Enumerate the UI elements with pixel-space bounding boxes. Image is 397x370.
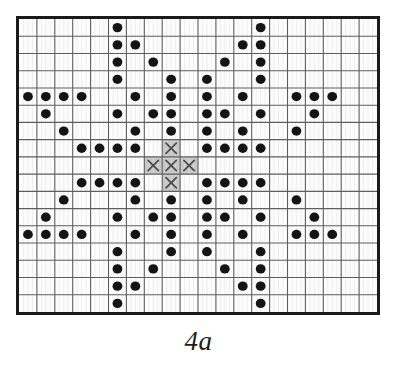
lattice-dot	[166, 92, 176, 101]
lattice-dot	[113, 178, 123, 187]
lattice-dot	[113, 23, 123, 32]
lattice-dot	[77, 92, 87, 101]
lattice-dot	[238, 282, 248, 291]
lattice-dot	[130, 178, 140, 187]
lattice-dot	[256, 23, 266, 32]
lattice-dot	[327, 230, 337, 239]
lattice-dot	[202, 126, 212, 135]
lattice-dot	[220, 213, 230, 222]
lattice-dot	[130, 126, 140, 135]
lattice-dot	[309, 230, 319, 239]
lattice-dot	[113, 264, 123, 273]
lattice-dot	[41, 109, 51, 118]
lattice-dot	[256, 144, 266, 153]
lattice-dot	[59, 126, 69, 135]
lattice-dot	[292, 126, 302, 135]
lattice-dot	[309, 92, 319, 101]
lattice-dot	[202, 144, 212, 153]
lattice-dot	[309, 213, 319, 222]
lattice-dot	[130, 195, 140, 204]
lattice-dot	[166, 230, 176, 239]
lattice-dot	[166, 195, 176, 204]
lattice-dot	[256, 75, 266, 84]
lattice-dot	[238, 126, 248, 135]
lattice-dot	[23, 92, 33, 101]
lattice-dot	[77, 230, 87, 239]
lattice-dot	[202, 109, 212, 118]
lattice-dot	[327, 92, 337, 101]
lattice-dot	[130, 144, 140, 153]
lattice-dot	[202, 195, 212, 204]
lattice-dot	[113, 282, 123, 291]
lattice-dot	[220, 144, 230, 153]
lattice-dot	[59, 195, 69, 204]
lattice-dot	[130, 230, 140, 239]
lattice-dot	[202, 75, 212, 84]
lattice-dot	[113, 57, 123, 66]
lattice-dot	[220, 264, 230, 273]
lattice-dot	[113, 40, 123, 49]
lattice-dot	[41, 230, 51, 239]
lattice-dot	[256, 213, 266, 222]
lattice-dot	[238, 230, 248, 239]
lattice-dot	[130, 92, 140, 101]
lattice-dot	[256, 178, 266, 187]
lattice-dot	[256, 264, 266, 273]
lattice-dot	[292, 92, 302, 101]
lattice-dot	[256, 57, 266, 66]
lattice-dot	[238, 195, 248, 204]
lattice-dot	[113, 299, 123, 308]
lattice-dot	[256, 40, 266, 49]
lattice-dot	[95, 178, 105, 187]
lattice-dot	[77, 178, 87, 187]
lattice-dot	[166, 213, 176, 222]
lattice-dot	[256, 299, 266, 308]
lattice-dot	[238, 178, 248, 187]
lattice-dot	[238, 92, 248, 101]
lattice-dot	[220, 109, 230, 118]
figure-container: 4a	[0, 0, 397, 370]
lattice-dot	[256, 109, 266, 118]
lattice-dot	[202, 247, 212, 256]
lattice-dot	[130, 40, 140, 49]
lattice-dot	[41, 92, 51, 101]
lattice-dot	[238, 40, 248, 49]
lattice-dot	[202, 92, 212, 101]
lattice-dot	[238, 144, 248, 153]
figure-caption: 4a	[0, 326, 397, 357]
lattice-dot	[166, 75, 176, 84]
lattice-dot	[256, 247, 266, 256]
lattice-dot	[309, 109, 319, 118]
lattice-dot	[113, 144, 123, 153]
lattice-dot	[202, 178, 212, 187]
lattice-dot	[59, 230, 69, 239]
lattice-dot	[166, 109, 176, 118]
lattice-dot	[59, 92, 69, 101]
lattice-dot	[95, 144, 105, 153]
lattice-dot	[113, 247, 123, 256]
lattice-dot	[220, 57, 230, 66]
lattice-grid-canvas	[19, 19, 377, 312]
lattice-dot	[113, 213, 123, 222]
lattice-dot	[256, 282, 266, 291]
lattice-dot	[202, 213, 212, 222]
lattice-dot	[148, 109, 158, 118]
lattice-dot	[113, 109, 123, 118]
lattice-dot	[41, 213, 51, 222]
lattice-dot	[202, 230, 212, 239]
lattice-dot	[292, 230, 302, 239]
lattice-dot	[148, 57, 158, 66]
lattice-dot	[166, 247, 176, 256]
lattice-grid-frame	[16, 16, 380, 315]
grid-lines	[19, 19, 377, 312]
lattice-dot	[292, 195, 302, 204]
lattice-dot	[166, 126, 176, 135]
lattice-dot	[220, 178, 230, 187]
lattice-dot	[113, 75, 123, 84]
lattice-dot	[148, 213, 158, 222]
lattice-dot	[77, 144, 87, 153]
lattice-dot	[148, 264, 158, 273]
lattice-dot	[130, 282, 140, 291]
lattice-dot	[23, 230, 33, 239]
